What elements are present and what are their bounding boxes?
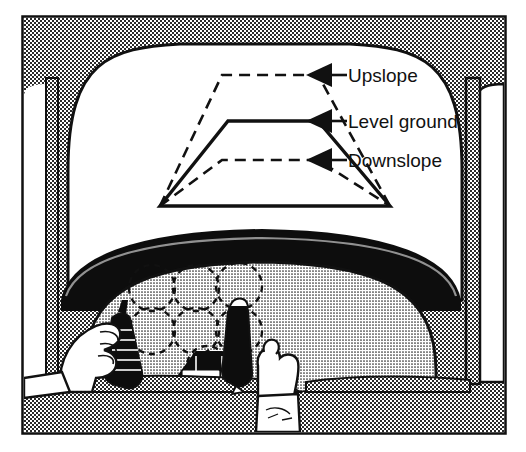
right-window-glass bbox=[478, 84, 504, 382]
cockpit-slope-diagram: Upslope Level ground Downslope bbox=[0, 0, 526, 452]
diagram-canvas: Upslope Level ground Downslope bbox=[0, 0, 526, 452]
right-thumb bbox=[264, 340, 279, 354]
left-door-pillar bbox=[46, 78, 58, 384]
callout-downslope: Downslope bbox=[306, 148, 442, 172]
downslope-label: Downslope bbox=[348, 150, 442, 171]
upslope-label: Upslope bbox=[348, 65, 418, 86]
callout-level-ground: Level ground bbox=[306, 109, 458, 133]
left-side-window bbox=[24, 84, 46, 382]
right-sleeve-cuff bbox=[256, 394, 300, 432]
cockpit-scene: Upslope Level ground Downslope bbox=[24, 18, 504, 432]
left-sleeve-cuff bbox=[24, 372, 70, 398]
seat-right-edge bbox=[306, 377, 470, 393]
right-door-pillar bbox=[466, 78, 480, 384]
level-ground-label: Level ground bbox=[348, 111, 458, 132]
